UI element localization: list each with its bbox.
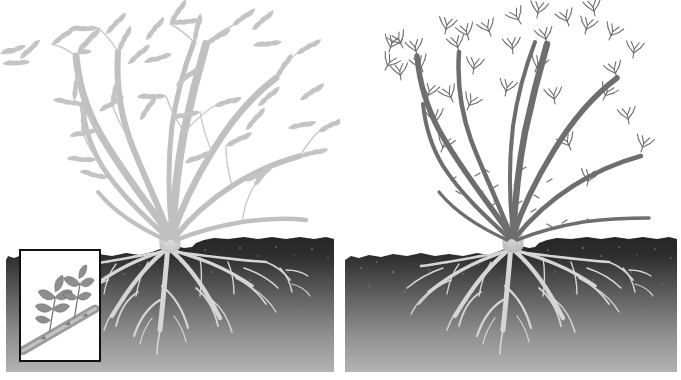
inset-cane-with-leafy-shoots: [19, 249, 101, 362]
panel-right-budding-shrub: [341, 0, 681, 380]
inset-left-drawing: [21, 251, 99, 360]
sprouts-right: [377, 0, 654, 188]
illustration-canvas: [0, 0, 681, 380]
shrub-right: [341, 0, 681, 380]
panel-left-leafed-shrub: [0, 0, 340, 380]
